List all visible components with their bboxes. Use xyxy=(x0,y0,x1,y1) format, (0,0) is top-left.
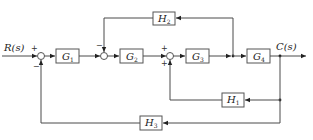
output-label: C(s) xyxy=(276,41,297,52)
wire-h3-s1 xyxy=(41,60,140,123)
sum-circle-icon xyxy=(38,53,45,60)
wire-h2-s2 xyxy=(104,18,153,52)
input-label: R(s) xyxy=(3,42,25,53)
sign-minus: − xyxy=(96,41,103,50)
block-g4: G4 xyxy=(247,49,270,63)
feedback-h1: H1 xyxy=(170,56,281,123)
sign-plus: + xyxy=(31,44,38,53)
sign-plus: + xyxy=(161,59,168,68)
sign-minus: − xyxy=(33,62,40,71)
sum-circle-icon xyxy=(101,53,108,60)
sign-plus: + xyxy=(161,44,168,53)
summing-junction-2: − xyxy=(96,41,108,60)
block-g3: G3 xyxy=(186,49,209,63)
wire-h1-s3 xyxy=(170,60,222,100)
block-diagram: R(s) + − G1 − G2 + + G3 xyxy=(0,0,313,140)
block-g1: G1 xyxy=(56,49,79,63)
summing-junction-1: + − xyxy=(31,44,45,71)
block-g2: G2 xyxy=(120,49,143,63)
